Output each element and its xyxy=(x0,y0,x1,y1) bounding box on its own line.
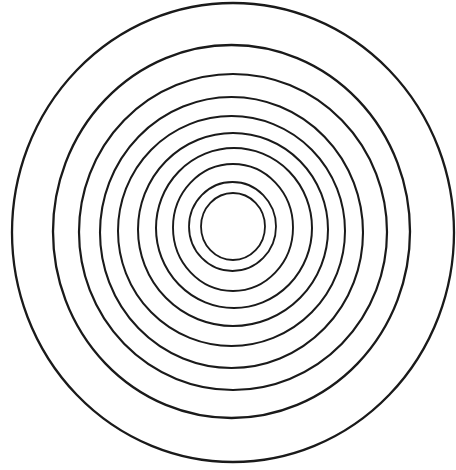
rings-svg xyxy=(0,0,456,470)
ring-2 xyxy=(189,182,276,271)
ring-1 xyxy=(201,193,265,260)
ring-7 xyxy=(100,97,363,368)
concentric-rings-diagram xyxy=(0,0,456,470)
ring-3 xyxy=(173,164,293,291)
ring-8 xyxy=(79,74,387,390)
ring-5 xyxy=(138,133,328,326)
ring-9 xyxy=(53,45,410,418)
ring-4 xyxy=(156,148,312,308)
